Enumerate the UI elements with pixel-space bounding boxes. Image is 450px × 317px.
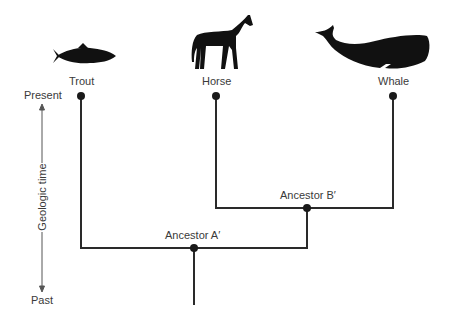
- node-trout: [77, 92, 85, 100]
- cladogram-lines: [0, 0, 450, 317]
- arrow-down-icon: [40, 286, 45, 292]
- branch-trout: [81, 96, 307, 248]
- arrow-up-icon: [40, 104, 45, 110]
- node-whale: [389, 92, 397, 100]
- taxon-label-trout: Trout: [69, 75, 94, 87]
- taxon-label-horse: Horse: [202, 75, 231, 87]
- ancestor-a-label: Ancestor A′: [165, 229, 220, 241]
- node-horse: [212, 92, 220, 100]
- node-ancestor-a: [190, 244, 198, 252]
- geologic-time-label: Geologic time: [36, 159, 48, 235]
- horse-icon: [192, 15, 253, 69]
- ancestor-b-label: Ancestor B′: [280, 189, 336, 201]
- time-present-label: Present: [24, 89, 62, 101]
- time-past-label: Past: [31, 294, 53, 306]
- whale-icon: [315, 25, 429, 69]
- taxon-label-whale: Whale: [378, 75, 409, 87]
- node-ancestor-b: [303, 204, 311, 212]
- trout-icon: [53, 43, 116, 63]
